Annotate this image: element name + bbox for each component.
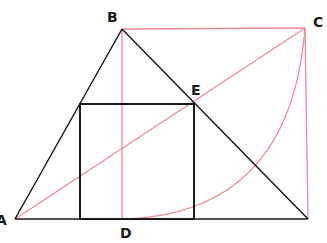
label-E: E	[191, 82, 201, 98]
line-C-vertical	[305, 28, 308, 219]
line-AC	[15, 28, 305, 219]
inscribed-square	[80, 104, 194, 219]
geometry-diagram: B C E A D	[0, 0, 327, 243]
label-A: A	[0, 212, 7, 228]
line-BC	[122, 28, 305, 29]
label-B: B	[107, 9, 118, 25]
label-D: D	[120, 225, 132, 241]
line-AB	[15, 29, 122, 219]
red-construction	[15, 28, 308, 219]
line-B-right	[122, 29, 308, 219]
label-C: C	[313, 14, 323, 30]
